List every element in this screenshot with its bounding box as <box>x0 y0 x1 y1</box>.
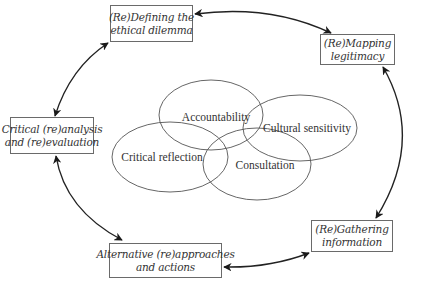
step-mapping-legitimacy: (Re)Mapping legitimacy <box>320 34 395 65</box>
step-alternative-approaches: Alternative (re)approaches and actions <box>109 243 222 278</box>
step-label-line1: (Re)Defining the <box>109 11 194 24</box>
arrow-alternative-critical <box>56 156 122 240</box>
step-label-line2: legitimacy <box>331 50 384 63</box>
principle-accountability: Accountability <box>182 111 250 123</box>
arrow-gathering-alternative <box>224 253 309 267</box>
step-label-line2: information <box>322 236 382 249</box>
arrow-defining-mapping <box>195 11 331 33</box>
step-label-line2: and (re)evaluation <box>5 136 99 149</box>
arrow-mapping-gathering <box>376 67 402 218</box>
arrow-critical-defining <box>55 43 108 116</box>
step-gathering-information: (Re)Gathering information <box>311 220 393 252</box>
step-label-line2: and actions <box>136 261 195 274</box>
ethical-decision-cycle-diagram: (Re)Defining the ethical dilemma (Re)Map… <box>0 0 421 284</box>
step-label-line1: Alternative (re)approaches <box>96 248 234 261</box>
step-critical-analysis: Critical (re)analysis and (re)evaluation <box>10 117 94 154</box>
step-label-line2: ethical dilemma <box>110 24 192 37</box>
step-label-line1: (Re)Gathering <box>315 223 388 236</box>
step-label-line1: Critical (re)analysis <box>2 123 103 136</box>
principle-critical-reflection: Critical reflection <box>121 151 202 163</box>
step-defining-ethical-dilemma: (Re)Defining the ethical dilemma <box>110 5 193 42</box>
step-label-line1: (Re)Mapping <box>324 37 391 50</box>
principle-consultation: Consultation <box>236 159 295 171</box>
principle-cultural-sensitivity: Cultural sensitivity <box>263 122 351 134</box>
